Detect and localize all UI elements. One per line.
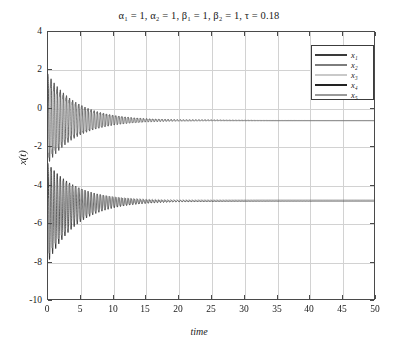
y-tick-mark <box>370 262 374 263</box>
y-tick-mark <box>370 31 374 32</box>
x-tick-mark <box>342 32 343 36</box>
y-tick-label: -6 <box>8 218 42 228</box>
x-tick-mark <box>244 295 245 299</box>
y-tick-mark <box>370 300 374 301</box>
y-tick-mark <box>370 185 374 186</box>
x-tick-label: 35 <box>272 304 282 314</box>
x-tick-mark <box>342 295 343 299</box>
x-tick-label: 50 <box>370 304 380 314</box>
chart-title: α₁ = 1, α₂ = 1, β₁ = 1, β₂ = 1, τ = 0.18 <box>0 10 398 21</box>
x-tick-label: 5 <box>78 304 83 314</box>
y-axis-label: x(t) <box>17 128 28 188</box>
legend-label: x₁ <box>351 50 358 60</box>
x-tick-mark <box>211 32 212 36</box>
x-tick-mark <box>80 295 81 299</box>
x-tick-mark <box>178 295 179 299</box>
x-tick-mark <box>47 32 48 36</box>
legend-label: x₄ <box>351 80 358 90</box>
y-tick-label: -8 <box>8 257 42 267</box>
y-tick-label: -10 <box>8 295 42 305</box>
x-tick-mark <box>145 32 146 36</box>
x-tick-mark <box>47 295 48 299</box>
legend-label: x₃ <box>351 70 358 80</box>
x-tick-mark <box>309 295 310 299</box>
y-tick-mark <box>48 262 52 263</box>
x-axis-label: time <box>0 326 398 337</box>
legend: x₁x₂x₃x₄x₅ <box>311 45 374 100</box>
legend-color-swatch <box>315 84 347 86</box>
legend-color-swatch <box>315 54 347 56</box>
x-tick-mark <box>80 32 81 36</box>
y-tick-label: 4 <box>8 26 42 36</box>
y-tick-mark <box>48 146 52 147</box>
x-tick-mark <box>244 32 245 36</box>
y-tick-label: 2 <box>8 64 42 74</box>
x-tick-mark <box>145 295 146 299</box>
x-tick-mark <box>375 295 376 299</box>
figure-container: α₁ = 1, α₂ = 1, β₁ = 1, β₂ = 1, τ = 0.18… <box>0 0 398 344</box>
x-tick-label: 20 <box>173 304 183 314</box>
legend-color-swatch <box>315 94 347 96</box>
y-tick-mark <box>370 146 374 147</box>
x-tick-label: 30 <box>239 304 249 314</box>
x-tick-mark <box>178 32 179 36</box>
x-tick-mark <box>277 32 278 36</box>
y-tick-mark <box>48 300 52 301</box>
x-tick-mark <box>113 295 114 299</box>
y-tick-mark <box>48 108 52 109</box>
x-tick-mark <box>277 295 278 299</box>
x-tick-mark <box>375 32 376 36</box>
x-tick-mark <box>113 32 114 36</box>
legend-color-swatch <box>315 74 347 76</box>
legend-color-swatch <box>315 64 347 66</box>
legend-item: x₅ <box>315 89 372 100</box>
y-tick-label: 0 <box>8 103 42 113</box>
x-tick-label: 15 <box>140 304 150 314</box>
x-tick-mark <box>211 295 212 299</box>
legend-label: x₂ <box>351 60 358 70</box>
x-tick-label: 45 <box>337 304 347 314</box>
y-tick-mark <box>370 223 374 224</box>
x-tick-label: 10 <box>108 304 118 314</box>
y-tick-mark <box>48 185 52 186</box>
y-tick-mark <box>48 223 52 224</box>
x-tick-label: 40 <box>304 304 314 314</box>
x-tick-label: 25 <box>206 304 216 314</box>
legend-label: x₅ <box>351 90 358 100</box>
y-tick-mark <box>370 108 374 109</box>
x-tick-mark <box>309 32 310 36</box>
x-tick-label: 0 <box>45 304 50 314</box>
y-tick-mark <box>48 69 52 70</box>
y-tick-mark <box>48 31 52 32</box>
